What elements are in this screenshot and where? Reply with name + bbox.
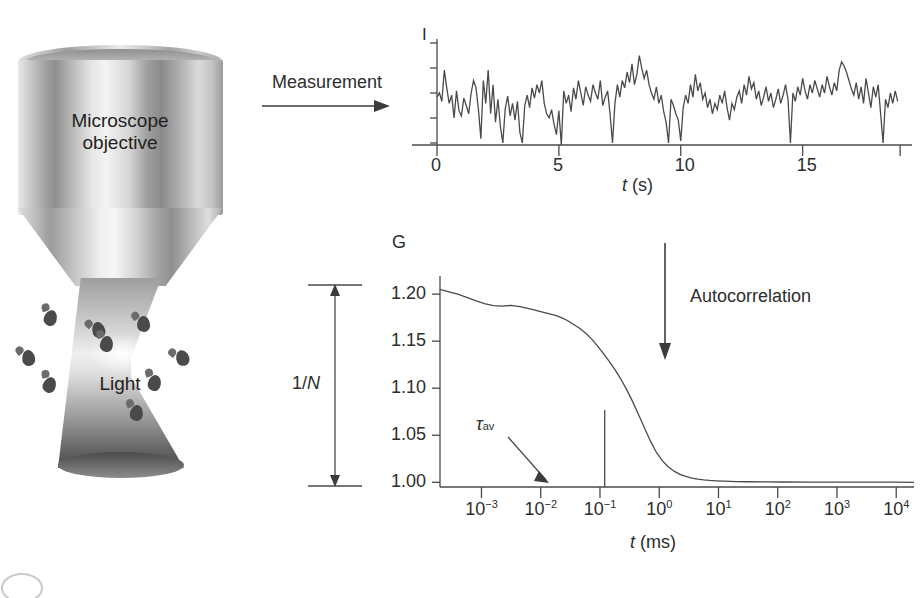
measurement-arrow-label: Measurement [272,72,382,93]
acf-y-tick-label: 1.05 [378,424,426,445]
acf-x-tick-label: 102 [758,498,798,520]
intensity-x-axis-unit: (s) [632,175,653,195]
intensity-x-axis-symbol: t [622,175,627,195]
acf-y-tick-label: 1.20 [378,283,426,304]
light-cone-base [58,452,184,478]
light-label: Light [60,373,180,395]
acf-x-tick-label: 103 [817,498,857,520]
acf-y-tick-label: 1.00 [378,471,426,492]
acf-x-axis-unit: (ms) [640,532,676,552]
objective-taper [18,208,223,286]
autocorrelation-chart: G 1.001.051.101.151.20 10−310−210−110010… [378,232,924,577]
intensity-x-tick-label: 10 [675,155,695,176]
measurement-arrow-icon [262,98,392,118]
acf-x-tick-label: 10−3 [461,498,501,520]
molecule-particle [42,309,59,328]
intensity-x-tick-label: 15 [797,155,817,176]
acf-x-tick-label: 10−2 [521,498,561,520]
microscope-objective-illustration: Microscope objective Light [0,20,300,500]
acf-y-tick-label: 1.10 [378,377,426,398]
intensity-trace-plot [400,25,920,200]
objective-label-line1: Microscope [71,110,168,131]
acf-x-tick-label: 100 [639,498,679,520]
intensity-x-tick-label: 0 [431,155,441,176]
autocorrelation-plot [378,232,924,577]
molecule-particle [21,349,37,367]
objective-label-line2: objective [83,132,158,153]
acf-x-tick-label: 10−1 [580,498,620,520]
molecule-particle [41,375,59,394]
intensity-trace-chart: I 051015 t (s) [400,25,920,200]
intensity-x-axis-title: t (s) [622,175,653,196]
tau-av-annotation-label: τav [476,414,494,435]
tau-subscript: av [483,420,495,432]
molecule-particle [136,315,150,332]
acf-y-tick-label: 1.15 [378,330,426,351]
acf-x-tick-label: 101 [698,498,738,520]
acf-x-tick-label: 104 [876,498,916,520]
figure-number-marker-partial [0,558,60,598]
objective-label: Microscope objective [0,110,240,155]
intensity-x-tick-label: 5 [553,155,563,176]
acf-x-axis-title: t (ms) [630,532,676,553]
tau-symbol: τ [476,414,483,434]
amplitude-label-variable: N [307,373,320,393]
amplitude-label-prefix: 1/ [292,373,307,393]
molecule-particle [173,348,191,368]
amplitude-bracket-label: 1/N [292,373,320,394]
acf-x-axis-symbol: t [630,532,635,552]
